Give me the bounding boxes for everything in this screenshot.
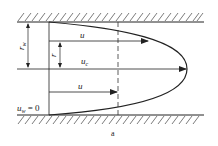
radius-dimension <box>58 42 62 68</box>
label-wall-velocity: uw = 0 <box>17 103 40 114</box>
velocity-profile-diagram: rw r u uc u uw = 0 a <box>0 0 218 146</box>
label-velocity-bottom: u <box>78 81 83 91</box>
label-velocity-top: u <box>80 30 85 40</box>
label-velocity-center: uc <box>81 56 89 67</box>
bottom-wall <box>17 115 204 124</box>
parabolic-velocity-profile <box>49 22 187 115</box>
figure-caption: a <box>111 129 115 138</box>
label-wall-radius: rw <box>16 42 27 50</box>
top-wall <box>17 13 204 22</box>
label-radius: r <box>48 53 58 57</box>
